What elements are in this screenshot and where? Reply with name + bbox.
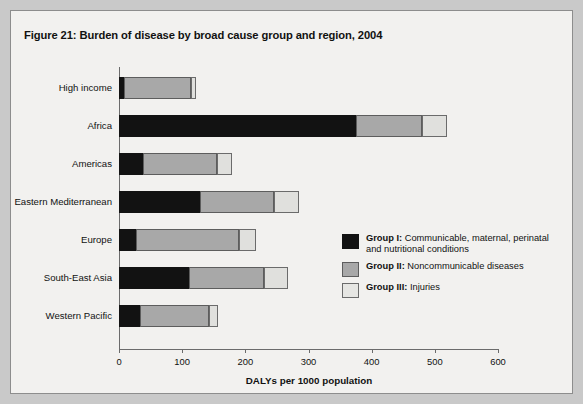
x-axis-tick-label: 600 — [490, 356, 506, 367]
x-axis-tick-label: 500 — [427, 356, 443, 367]
bar-segment — [264, 267, 288, 289]
bar-segment — [200, 191, 274, 213]
bar-row — [119, 77, 498, 99]
figure-panel: Figure 21: Burden of disease by broad ca… — [10, 10, 573, 394]
x-axis-tick-label: 0 — [116, 356, 121, 367]
bar-segment — [209, 305, 218, 327]
legend-item: Group I: Communicable, maternal, perinat… — [342, 233, 557, 256]
bar-row — [119, 305, 498, 327]
x-axis-tick-label: 300 — [301, 356, 317, 367]
bar-segment — [119, 153, 143, 175]
legend-swatch-group-ii — [342, 262, 359, 277]
legend-swatch-group-iii — [342, 283, 359, 298]
x-axis-tick — [309, 349, 310, 353]
bar-segment — [119, 115, 356, 137]
bar-segment — [119, 305, 140, 327]
y-axis-label: Africa — [11, 120, 112, 131]
bar-segment — [136, 229, 239, 251]
figure-title: Figure 21: Burden of disease by broad ca… — [24, 29, 382, 41]
x-axis-tick — [182, 349, 183, 353]
x-axis-tick — [245, 349, 246, 353]
legend-label-group-iii: Group III: Injuries — [366, 282, 440, 293]
y-axis-label: Eastern Mediterranean — [11, 196, 112, 207]
x-axis-tick — [498, 349, 499, 353]
bar-row — [119, 153, 498, 175]
bar-segment — [422, 115, 448, 137]
y-axis-label: Europe — [11, 234, 112, 245]
x-axis-tick — [435, 349, 436, 353]
legend-item: Group II: Noncommunicable diseases — [342, 261, 557, 277]
bar-segment — [189, 267, 264, 289]
x-axis-tick — [119, 349, 120, 353]
y-axis-label: Western Pacific — [11, 310, 112, 321]
bar-row — [119, 191, 498, 213]
x-axis-tick-label: 200 — [238, 356, 254, 367]
x-axis-tick — [372, 349, 373, 353]
legend-label-group-ii: Group II: Noncommunicable diseases — [366, 261, 524, 272]
bar-segment — [119, 267, 189, 289]
legend-item: Group III: Injuries — [342, 282, 557, 298]
x-axis-tick-label: 100 — [174, 356, 190, 367]
bar-segment — [217, 153, 232, 175]
bar-segment — [124, 77, 191, 99]
chart-legend: Group I: Communicable, maternal, perinat… — [342, 233, 557, 303]
bar-segment — [274, 191, 299, 213]
y-axis-label: Americas — [11, 158, 112, 169]
bar-segment — [143, 153, 217, 175]
bar-segment — [140, 305, 209, 327]
bar-row — [119, 115, 498, 137]
x-axis-title: DALYs per 1000 population — [119, 375, 499, 386]
bar-segment — [119, 191, 200, 213]
legend-label-group-i: Group I: Communicable, maternal, perinat… — [366, 233, 557, 256]
bar-segment — [239, 229, 256, 251]
y-axis-label: South-East Asia — [11, 272, 112, 283]
y-axis-label: High income — [11, 82, 112, 93]
bar-segment — [119, 229, 136, 251]
bar-segment — [356, 115, 422, 137]
bar-segment — [191, 77, 196, 99]
legend-swatch-group-i — [342, 234, 359, 249]
x-axis-tick-label: 400 — [364, 356, 380, 367]
